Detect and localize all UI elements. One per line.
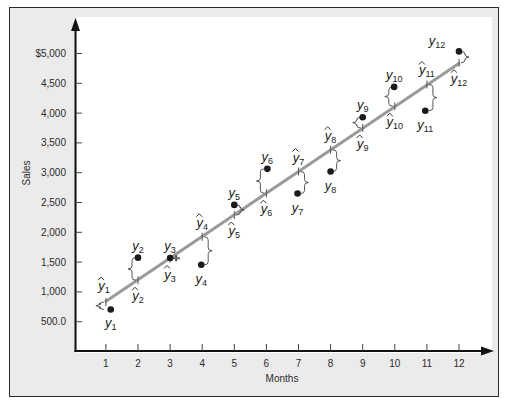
- trend-label: y11: [418, 61, 435, 79]
- x-axis-arrow-icon: [481, 347, 494, 356]
- y-tick-label: $5,000: [35, 48, 66, 59]
- data-point: [107, 306, 114, 313]
- x-tick-label: 5: [232, 358, 238, 369]
- data-point: [359, 114, 366, 121]
- x-tick-label: 4: [199, 358, 205, 369]
- data-point: [327, 168, 334, 175]
- svg-text:y11: y11: [418, 62, 435, 79]
- trend-label: y9: [356, 135, 369, 153]
- data-point: [231, 202, 238, 209]
- actual-label: y11: [416, 117, 433, 134]
- y-tick-label: 3,500: [41, 137, 66, 148]
- svg-text:y5: y5: [228, 223, 241, 240]
- y-tick-label: 3,000: [41, 167, 66, 178]
- x-tick-label: 10: [389, 358, 401, 369]
- actual-label: y2: [131, 238, 144, 255]
- y-tick-label: 1,000: [41, 286, 66, 297]
- x-tick-label: 8: [328, 358, 334, 369]
- data-point: [422, 107, 429, 114]
- trend-label: y10: [386, 113, 404, 131]
- trend-label: y4: [195, 214, 208, 232]
- x-tick-label: 11: [422, 358, 433, 369]
- x-axis: [75, 347, 495, 356]
- trend-label: y8: [324, 127, 337, 145]
- actual-label: y7: [291, 200, 304, 217]
- residual-brace: [461, 51, 469, 62]
- x-ticks: 123456789101112: [103, 344, 465, 369]
- y-tick-label: 4,500: [41, 78, 66, 89]
- y-tick-label: 500.0: [41, 316, 66, 327]
- trend-label: y12: [450, 70, 468, 88]
- actual-label: y9: [356, 97, 369, 114]
- x-tick-label: 3: [167, 358, 173, 369]
- actual-label: y5: [228, 185, 241, 202]
- y-tick-label: 4,000: [41, 108, 66, 119]
- actual-label: y3: [163, 238, 176, 255]
- x-tick-label: 9: [360, 358, 366, 369]
- x-tick-label: 1: [103, 358, 109, 369]
- actual-label: y12: [428, 33, 446, 50]
- x-tick-label: 7: [296, 358, 302, 369]
- svg-text:y10: y10: [386, 114, 404, 131]
- y-axis: [71, 18, 80, 352]
- trend-line: [105, 59, 460, 306]
- svg-text:y1: y1: [97, 278, 110, 295]
- x-tick-label: 12: [453, 358, 465, 369]
- trend-label: y5: [228, 222, 241, 240]
- trend-label: y6: [260, 200, 273, 218]
- trend-label: y1: [97, 277, 110, 295]
- actual-label: y8: [324, 178, 337, 195]
- y-tick-label: 1,500: [41, 257, 66, 268]
- actual-label: y4: [194, 271, 207, 288]
- svg-text:y7: y7: [292, 150, 305, 167]
- actual-label: y1: [104, 315, 117, 332]
- data-point: [198, 261, 205, 268]
- data-point: [167, 255, 174, 262]
- residual-brace: [385, 87, 393, 106]
- x-tick-label: 2: [135, 358, 141, 369]
- residual-brace: [204, 237, 212, 265]
- residual-brace: [429, 84, 437, 110]
- actual-label: y6: [261, 149, 274, 166]
- data-point: [391, 84, 398, 91]
- actual-label: y10: [385, 67, 403, 84]
- x-tick-label: 6: [264, 358, 270, 369]
- data-point: [456, 48, 463, 55]
- svg-text:y4: y4: [195, 215, 208, 232]
- trend-label: y2: [131, 287, 144, 305]
- residual-brace: [301, 172, 309, 194]
- data-point: [264, 166, 271, 173]
- scatter-chart: 500.01,0001,5002,0002,5003,0003,5004,000…: [0, 0, 509, 407]
- svg-text:y12: y12: [450, 71, 468, 88]
- y-axis-title: Sales: [21, 160, 32, 185]
- residual-brace: [353, 117, 361, 128]
- residual-brace: [128, 258, 136, 281]
- svg-text:y3: y3: [163, 267, 176, 284]
- residual-brace: [256, 169, 264, 193]
- trend-label: y7: [292, 149, 305, 167]
- svg-text:y2: y2: [131, 288, 144, 305]
- svg-text:y9: y9: [356, 136, 369, 153]
- svg-text:y8: y8: [324, 128, 337, 145]
- trend-label: y3: [163, 266, 176, 284]
- residual-brace: [333, 150, 341, 172]
- data-point: [294, 190, 301, 197]
- y-tick-label: 2,500: [41, 197, 66, 208]
- y-tick-label: 2,000: [41, 227, 66, 238]
- residual-brace: [96, 302, 104, 309]
- x-axis-title: Months: [266, 373, 299, 384]
- y-axis-arrow-icon: [71, 18, 80, 31]
- data-point: [135, 254, 142, 261]
- svg-text:y6: y6: [260, 201, 273, 218]
